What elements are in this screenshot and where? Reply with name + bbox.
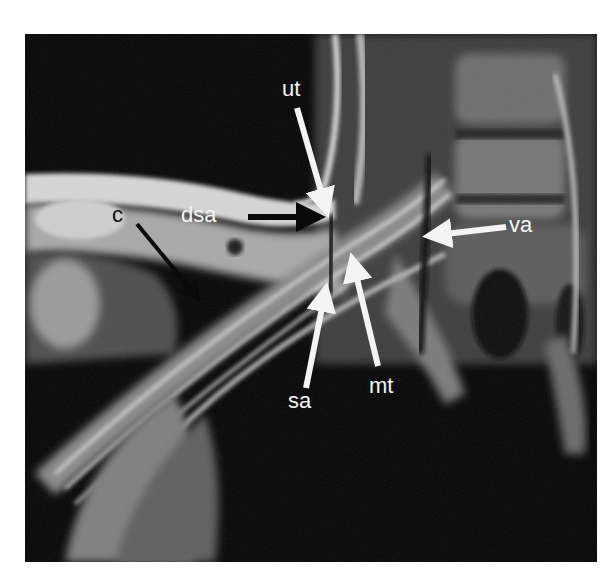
mri-anatomy-illustration (25, 34, 597, 562)
label-va: va (509, 214, 532, 236)
label-c: c (112, 204, 123, 226)
label-ut: ut (282, 78, 300, 100)
mri-image (25, 34, 597, 562)
label-mt: mt (369, 375, 393, 397)
label-dsa: dsa (181, 204, 216, 226)
label-sa: sa (288, 390, 311, 412)
